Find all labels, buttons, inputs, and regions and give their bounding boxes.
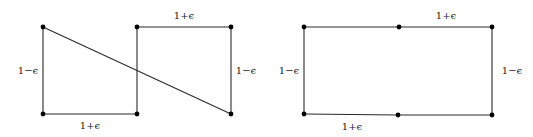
vertex: [396, 113, 401, 118]
label-bottom: 1+ϵ: [342, 121, 363, 132]
diagram-canvas: 1+ϵ 1−ϵ 1−ϵ 1+ϵ 1+ϵ 1−ϵ 1−ϵ 1+ϵ: [0, 0, 533, 137]
label-left: 1−ϵ: [279, 65, 300, 76]
left-figure: 1+ϵ 1−ϵ 1−ϵ 1+ϵ: [18, 10, 257, 131]
right-figure: 1+ϵ 1−ϵ 1−ϵ 1+ϵ: [279, 10, 523, 132]
vertex: [490, 113, 495, 118]
label-bottom: 1+ϵ: [80, 120, 101, 131]
vertex: [135, 112, 140, 117]
vertex: [490, 25, 495, 30]
vertex: [41, 112, 46, 117]
vertex: [397, 25, 402, 30]
vertex: [302, 112, 307, 117]
vertex: [302, 25, 307, 30]
label-top: 1+ϵ: [436, 10, 457, 21]
vertex: [41, 25, 46, 30]
label-right: 1−ϵ: [236, 65, 257, 76]
label-left: 1−ϵ: [18, 65, 39, 76]
vertex: [229, 112, 234, 117]
vertex: [135, 25, 140, 30]
edge-bottom-left: [304, 114, 398, 115]
label-top: 1+ϵ: [174, 10, 195, 21]
label-right: 1−ϵ: [502, 65, 523, 76]
vertex: [229, 25, 234, 30]
